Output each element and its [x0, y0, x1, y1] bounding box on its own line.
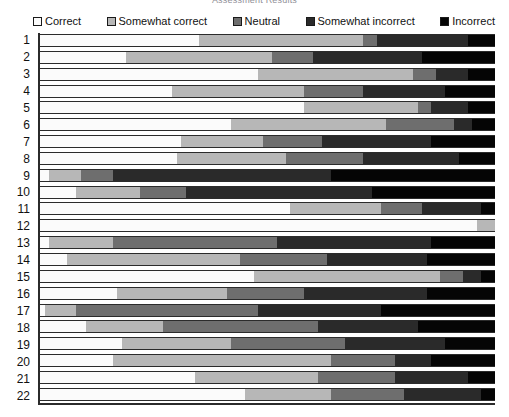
bar-segment: [304, 102, 418, 113]
bar-segment: [49, 237, 113, 248]
legend-label: Somewhat correct: [119, 16, 208, 27]
bar-segment: [345, 338, 445, 349]
bar-segment: [81, 170, 113, 181]
bar-segment: [454, 119, 472, 130]
legend-item-incorrect[interactable]: Incorrect: [440, 16, 495, 27]
legend-item-somewhat-correct[interactable]: Somewhat correct: [107, 16, 208, 27]
bar-segment: [381, 305, 495, 316]
bar-row: [40, 236, 495, 249]
bar-row: [40, 186, 495, 199]
bar-segment: [404, 389, 481, 400]
y-axis-tick-label: 9: [0, 170, 34, 183]
bar-segment: [377, 35, 468, 46]
bar-segment: [40, 338, 122, 349]
bar-segment: [40, 153, 177, 164]
bar-segment: [290, 203, 381, 214]
bar-segment: [231, 338, 345, 349]
bar-segment: [254, 271, 441, 282]
y-axis-tick-label: 12: [0, 220, 34, 233]
y-axis-tick-label: 6: [0, 119, 34, 132]
y-axis-tick-label: 5: [0, 102, 34, 115]
bar-segment: [431, 102, 467, 113]
bar-segment: [40, 203, 290, 214]
bar-segment: [258, 69, 413, 80]
y-axis-tick-label: 4: [0, 85, 34, 98]
y-axis-tick-label: 2: [0, 51, 34, 64]
bar-row: [40, 202, 495, 215]
bar-segment: [468, 102, 495, 113]
bar-row: [40, 101, 495, 114]
bar-segment: [263, 136, 322, 147]
bar-segment: [40, 119, 231, 130]
y-axis-tick-label: 15: [0, 271, 34, 284]
bar-segment: [231, 119, 386, 130]
bar-segment: [113, 355, 331, 366]
bar-segment: [181, 136, 263, 147]
bar-rows: [40, 33, 495, 403]
y-axis-tick-label: 22: [0, 390, 34, 403]
bar-segment: [86, 321, 163, 332]
bar-segment: [363, 35, 377, 46]
bar-segment: [445, 338, 495, 349]
bar-row: [40, 34, 495, 47]
legend-item-correct[interactable]: Correct: [33, 16, 81, 27]
bar-segment: [422, 52, 495, 63]
bar-segment: [331, 355, 395, 366]
y-axis-labels: 12345678910111213141516171819202122: [0, 33, 34, 405]
bar-segment: [318, 372, 395, 383]
bar-row: [40, 354, 495, 367]
bar-segment: [40, 254, 67, 265]
y-axis-tick-label: 17: [0, 305, 34, 318]
bar-segment: [122, 338, 231, 349]
legend-label: Neutral: [245, 16, 280, 27]
bar-segment: [481, 271, 495, 282]
bar-segment: [413, 69, 436, 80]
bar-segment: [40, 355, 113, 366]
bar-segment: [67, 254, 240, 265]
bar-segment: [395, 355, 431, 366]
bar-segment: [277, 237, 432, 248]
bar-segment: [199, 35, 363, 46]
bar-segment: [327, 254, 427, 265]
bar-segment: [318, 321, 418, 332]
bar-row: [40, 253, 495, 266]
legend-swatch-icon: [440, 17, 449, 26]
bar-segment: [431, 136, 495, 147]
y-axis-tick-label: 1: [0, 34, 34, 47]
bar-segment: [40, 69, 258, 80]
legend-item-somewhat-incorrect[interactable]: Somewhat incorrect: [306, 16, 415, 27]
chart-title: Assessment Results: [0, 0, 509, 4]
bar-segment: [113, 237, 277, 248]
bar-row: [40, 152, 495, 165]
bar-segment: [468, 35, 495, 46]
bar-segment: [40, 136, 181, 147]
bar-segment: [163, 321, 318, 332]
y-axis-tick-label: 7: [0, 136, 34, 149]
legend-item-neutral[interactable]: Neutral: [233, 16, 280, 27]
bar-segment: [477, 220, 495, 231]
bar-row: [40, 304, 495, 317]
bar-segment: [304, 86, 363, 97]
bar-segment: [40, 187, 76, 198]
legend-label: Incorrect: [452, 16, 495, 27]
bar-segment: [463, 271, 481, 282]
bar-segment: [76, 187, 140, 198]
bar-segment: [126, 52, 272, 63]
bar-segment: [272, 52, 313, 63]
bar-segment: [440, 271, 463, 282]
bar-segment: [195, 372, 318, 383]
y-axis-tick-label: 8: [0, 153, 34, 166]
bar-segment: [40, 237, 49, 248]
bar-segment: [45, 305, 77, 316]
legend-label: Correct: [45, 16, 81, 27]
bar-segment: [40, 372, 195, 383]
legend-label: Somewhat incorrect: [318, 16, 415, 27]
legend-swatch-icon: [33, 17, 42, 26]
bar-row: [40, 320, 495, 333]
legend-swatch-icon: [306, 17, 315, 26]
plot-area: [38, 33, 495, 405]
legend-swatch-icon: [233, 17, 242, 26]
y-axis-tick-label: 16: [0, 288, 34, 301]
bar-segment: [472, 119, 495, 130]
bar-row: [40, 219, 495, 232]
